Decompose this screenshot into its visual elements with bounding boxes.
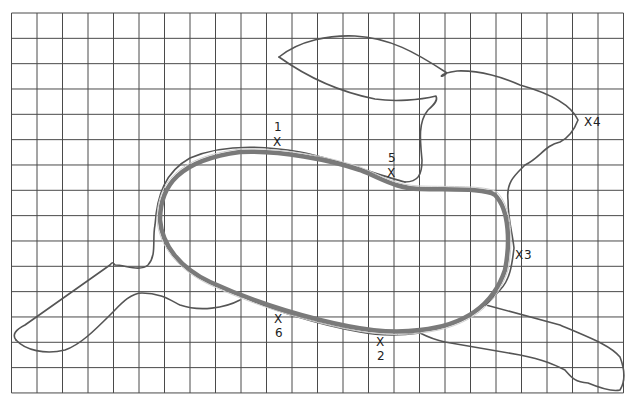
marker-4: X 4 — [584, 115, 601, 129]
marker-5: 5 X — [387, 151, 396, 180]
ear-inner-outline — [279, 57, 437, 182]
marker-1-number: 1 — [274, 120, 282, 134]
marker-2-x: X — [376, 335, 384, 349]
marker-2-number: 2 — [377, 349, 385, 363]
body-loop — [157, 149, 511, 335]
marker-6: X 6 — [274, 312, 283, 340]
marker-3-x: X — [515, 248, 523, 262]
marker-4-number: 4 — [593, 115, 601, 129]
marker-3: X 3 — [515, 248, 532, 262]
marker-5-x: X — [387, 166, 395, 180]
grid — [12, 13, 624, 393]
body-loop-thick — [160, 152, 508, 332]
hind-foot-outline — [16, 293, 240, 352]
hare-grid-diagram: 1 X 5 X X 3 X 4 X 6 X 2 — [0, 0, 637, 405]
marker-1-x: X — [273, 135, 281, 149]
back-outline — [14, 147, 405, 340]
body-loop-inner — [157, 149, 511, 335]
marker-2: X 2 — [376, 335, 385, 363]
marker-3-number: 3 — [524, 248, 532, 262]
marker-4-x: X — [584, 115, 592, 129]
marker-1: 1 X — [273, 120, 282, 149]
marker-6-x: X — [274, 312, 282, 326]
ear-outline — [279, 36, 578, 305]
marker-6-number: 6 — [275, 326, 283, 340]
marker-5-number: 5 — [388, 151, 396, 165]
